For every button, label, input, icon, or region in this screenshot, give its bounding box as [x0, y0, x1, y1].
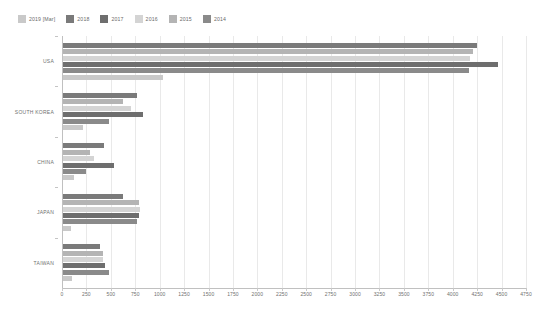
bar [62, 276, 72, 281]
x-axis-tick-label: 500 [107, 291, 116, 297]
x-axis-tick-mark [62, 288, 63, 291]
legend-item[interactable]: 2015 [169, 13, 192, 25]
gridline [526, 36, 527, 288]
bar-group [62, 137, 526, 187]
x-axis-tick-label: 250 [82, 291, 91, 297]
x-axis-line [62, 288, 526, 289]
x-axis-tick-mark [453, 288, 454, 291]
legend-item[interactable]: 2017 [100, 13, 123, 25]
legend-item-label: 2017 [111, 15, 123, 23]
bar-group [62, 86, 526, 136]
x-axis-tick-mark [502, 288, 503, 291]
bar [62, 163, 114, 168]
bar [62, 43, 477, 48]
x-axis-tick-label: 4500 [496, 291, 508, 297]
x-axis-tick-label: 1000 [154, 291, 166, 297]
x-axis-tick-label: 3500 [398, 291, 410, 297]
y-axis-tick-mark [55, 137, 58, 138]
bar [62, 194, 123, 199]
y-axis-tick-mark [55, 187, 58, 188]
bar-group [62, 187, 526, 237]
bar [62, 62, 498, 67]
legend-swatch-icon [18, 15, 26, 23]
bar [62, 226, 71, 231]
x-axis-tick-mark [331, 288, 332, 291]
bar-chart: 2019 [Mar]20182017201620152014 USASOUTH … [0, 0, 534, 321]
bar-group [62, 36, 526, 86]
legend-item-label: 2019 [Mar] [29, 15, 55, 23]
x-axis-tick-label: 3250 [374, 291, 386, 297]
y-axis-tick-label: USA [43, 58, 54, 64]
y-axis-labels: USASOUTH KOREACHINAJAPANTAIWAN [0, 36, 58, 288]
x-axis-tick-mark [257, 288, 258, 291]
x-axis-labels: 0250500750100012501500175020002250250027… [0, 291, 534, 305]
x-axis-tick-mark [86, 288, 87, 291]
bar [62, 119, 109, 124]
y-axis-tick-label: JAPAN [37, 209, 54, 215]
y-axis-tick-label: CHINA [37, 159, 54, 165]
bar [62, 93, 137, 98]
bar [62, 257, 103, 262]
legend-item[interactable]: 2016 [135, 13, 158, 25]
bar [62, 75, 163, 80]
x-axis-tick-label: 2750 [325, 291, 337, 297]
bar [62, 270, 109, 275]
x-axis-tick-label: 3750 [423, 291, 435, 297]
x-axis-tick-mark [379, 288, 380, 291]
legend-item[interactable]: 2019 [Mar] [18, 13, 55, 25]
x-axis-tick-label: 1750 [227, 291, 239, 297]
bar [62, 150, 90, 155]
legend-swatch-icon [135, 15, 143, 23]
x-axis-tick-label: 1250 [178, 291, 190, 297]
bar [62, 56, 470, 61]
legend-item[interactable]: 2014 [203, 13, 226, 25]
y-axis-tick-mark [55, 86, 58, 87]
x-axis-tick-mark [526, 288, 527, 291]
x-axis-tick-mark [404, 288, 405, 291]
x-axis-tick-mark [306, 288, 307, 291]
legend-item[interactable]: 2018 [66, 13, 89, 25]
x-axis-tick-label: 3000 [349, 291, 361, 297]
x-axis-tick-mark [355, 288, 356, 291]
bar [62, 251, 103, 256]
legend-item-label: 2015 [180, 15, 192, 23]
bar [62, 68, 469, 73]
legend-item-label: 2016 [146, 15, 158, 23]
x-axis-tick-label: 4000 [447, 291, 459, 297]
x-axis-tick-label: 4250 [471, 291, 483, 297]
bar [62, 99, 123, 104]
bar [62, 175, 74, 180]
legend-swatch-icon [203, 15, 211, 23]
x-axis-tick-mark [233, 288, 234, 291]
x-axis-tick-label: 2500 [300, 291, 312, 297]
x-axis-tick-mark [184, 288, 185, 291]
y-axis-tick-mark [55, 238, 58, 239]
y-axis-tick-label: SOUTH KOREA [15, 109, 54, 115]
x-axis-tick-label: 1500 [203, 291, 215, 297]
x-axis-tick-mark [111, 288, 112, 291]
legend-swatch-icon [66, 15, 74, 23]
bar [62, 112, 143, 117]
legend-item-label: 2014 [214, 15, 226, 23]
bar [62, 106, 131, 111]
bar [62, 207, 140, 212]
x-axis-tick-label: 0 [61, 291, 64, 297]
bar-group [62, 238, 526, 288]
bar [62, 263, 105, 268]
x-axis-tick-label: 2250 [276, 291, 288, 297]
bar [62, 143, 104, 148]
x-axis-tick-mark [160, 288, 161, 291]
bar [62, 156, 94, 161]
y-axis-line [62, 36, 63, 289]
x-axis-tick-mark [428, 288, 429, 291]
bar [62, 244, 100, 249]
plot-area [62, 36, 526, 288]
bar [62, 49, 473, 54]
y-axis-tick-label: TAIWAN [34, 260, 54, 266]
x-axis-tick-label: 750 [131, 291, 140, 297]
legend-swatch-icon [169, 15, 177, 23]
legend-swatch-icon [100, 15, 108, 23]
chart-legend: 2019 [Mar]20182017201620152014 [18, 13, 226, 25]
bar [62, 219, 137, 224]
x-axis-tick-label: 4750 [520, 291, 532, 297]
